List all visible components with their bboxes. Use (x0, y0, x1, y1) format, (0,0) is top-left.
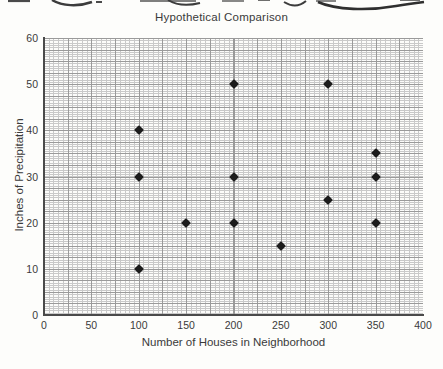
y-tick-label: 0 (32, 309, 38, 321)
y-tick-label: 20 (26, 217, 38, 229)
y-tick-label: 50 (26, 78, 38, 90)
x-axis-line (43, 314, 424, 316)
x-axis-label: Number of Houses in Neighborhood (44, 336, 423, 348)
x-tick-label: 350 (367, 319, 385, 331)
y-tick-label: 30 (26, 171, 38, 183)
y-axis-label: Inches of Precipitation (13, 95, 25, 255)
x-tick-label: 250 (272, 319, 290, 331)
y-tick-label: 10 (26, 263, 38, 275)
y-tick-label: 40 (26, 124, 38, 136)
chart-title: Hypothetical Comparison (0, 11, 443, 23)
y-axis-line (43, 37, 45, 316)
chart-page: Hypothetical Comparison 0501001502002503… (0, 0, 443, 369)
x-tick-label: 100 (130, 319, 148, 331)
x-tick-label: 150 (177, 319, 195, 331)
x-tick-label: 0 (41, 319, 47, 331)
x-tick-label: 300 (319, 319, 337, 331)
y-tick-label: 60 (26, 32, 38, 44)
x-tick-label: 50 (86, 319, 98, 331)
x-tick-label: 400 (414, 319, 432, 331)
x-tick-label: 200 (225, 319, 243, 331)
